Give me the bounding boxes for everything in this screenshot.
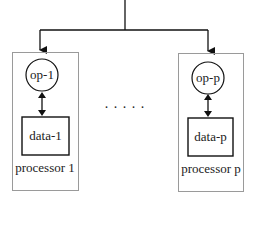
- op-p-label: op-p: [192, 70, 224, 86]
- op-1-label: op-1: [26, 67, 58, 83]
- processor-p-label: processor p: [178, 161, 244, 177]
- ellipsis: . . . . .: [95, 96, 155, 112]
- processor-1-label: processor 1: [12, 160, 78, 176]
- data-1-label: data-1: [22, 128, 69, 144]
- data-p-label: data-p: [188, 129, 233, 145]
